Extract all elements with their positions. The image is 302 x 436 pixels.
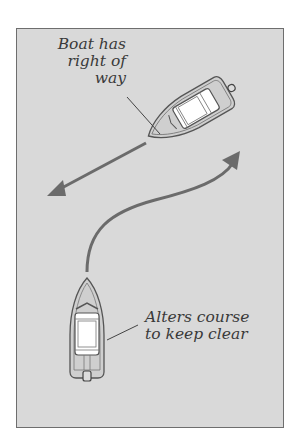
give-way-leader-line [107,325,138,340]
give-way-label-line1: Alters course [145,309,285,326]
stand-on-leader-line [127,97,160,134]
stand-on-label-line3: way [50,70,126,87]
give-way-boat-icon [70,278,104,381]
straight-course-arrow [47,143,146,196]
stand-on-label-line1: Boat has [50,36,126,53]
stand-on-boat-icon [139,71,243,152]
curved-course-arrow [87,151,240,272]
stand-on-label: Boat has right of way [50,36,126,87]
give-way-label: Alters course to keep clear [145,309,285,343]
diagram-artwork [0,0,302,436]
stand-on-label-line2: right of [50,53,126,70]
give-way-label-line2: to keep clear [145,326,285,343]
